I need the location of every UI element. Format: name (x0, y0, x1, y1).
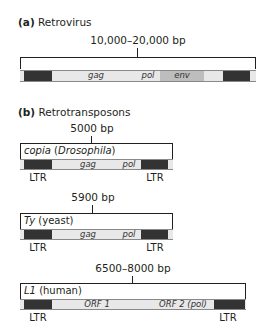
section-a-label: (a) Retrovirus (18, 16, 92, 28)
copia-organism: Drosophila (58, 145, 112, 156)
l1-size-label: 6500–8000 bp (95, 262, 170, 274)
copia-ltr-left (24, 160, 52, 169)
l1-ltr-right-label: LTR (219, 312, 236, 323)
l1-name: L1 (24, 285, 36, 296)
ty-name: Ty (24, 215, 35, 226)
copia-ltr-right-label: LTR (146, 172, 163, 183)
ty-ltr-left (24, 230, 52, 239)
ty-gene-pol: pol (114, 230, 144, 239)
ty-ltr-left-label: LTR (29, 242, 46, 253)
l1-ltr-right (214, 300, 245, 309)
section-b-letter: (b) (18, 106, 35, 118)
copia-ltr-right (141, 160, 168, 169)
l1-gene-orf1: ORF 1 (72, 300, 122, 309)
l1-element-box: L1 (human) (20, 283, 246, 299)
section-b-label: (b) Retrotransposons (18, 106, 130, 118)
l1-gene-bar: ORF 1 ORF 2 (pol) (20, 299, 246, 310)
retrovirus-bracket (20, 57, 256, 69)
l1-organism: (human) (39, 285, 82, 296)
copia-ltr-left-label: LTR (29, 172, 46, 183)
l1-gene-orf2: ORF 2 (pol) (148, 300, 218, 309)
section-a-letter: (a) (18, 16, 35, 28)
ty-ltr-right (141, 230, 168, 239)
retrovirus-ltr-left (24, 71, 52, 81)
ty-size-tick (92, 205, 93, 213)
copia-element-box: copia (Drosophila) (20, 143, 173, 159)
copia-gene-pol: pol (114, 160, 144, 169)
ty-element-box: Ty (yeast) (20, 213, 173, 229)
ty-gene-bar: gag pol (20, 229, 173, 240)
section-a-title: Retrovirus (38, 16, 91, 28)
l1-ltr-left (24, 300, 52, 309)
l1-ltr-left-label: LTR (29, 312, 46, 323)
ty-ltr-right-label: LTR (146, 242, 163, 253)
retrovirus-gene-bar: gag pol env (20, 70, 256, 82)
ty-organism: (yeast) (38, 215, 73, 226)
retrovirus-size-label: 10,000–20,000 bp (90, 34, 185, 46)
section-b-title: Retrotransposons (38, 106, 130, 118)
ty-gene-gag: gag (68, 230, 108, 239)
retrovirus-ltr-right (223, 71, 250, 81)
retrovirus-gene-gag: gag (76, 71, 116, 81)
retrovirus-gene-env: env (160, 71, 204, 81)
copia-gene-bar: gag pol (20, 159, 173, 170)
copia-size-label: 5000 bp (70, 122, 113, 134)
copia-name: copia (24, 145, 51, 156)
ty-size-label: 5900 bp (71, 191, 114, 203)
copia-gene-gag: gag (68, 160, 108, 169)
